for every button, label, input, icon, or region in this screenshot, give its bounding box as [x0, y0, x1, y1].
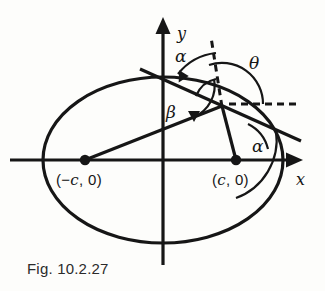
left-focus-dot — [80, 155, 90, 165]
angle-label-beta: β — [166, 104, 176, 121]
x-axis-label: x — [296, 172, 305, 188]
angle-label-alpha-lower: α — [252, 138, 263, 155]
x-axis-arrowhead — [286, 153, 303, 168]
angle-label-theta: θ — [249, 55, 259, 72]
y-axis-label: y — [177, 26, 186, 42]
left-focus-label-minus: − — [61, 171, 70, 188]
figure-container: y x α θ β α (−c, 0) (c, 0) Fig. 10.2.27 — [0, 0, 325, 291]
right-focus-label: (c, 0) — [212, 172, 249, 188]
figure-caption: Fig. 10.2.27 — [27, 261, 109, 276]
left-focus-label: (−c, 0) — [56, 172, 102, 188]
right-focus-label-rest: , 0) — [226, 171, 249, 188]
focal-radius-left-line — [85, 106, 222, 160]
right-focus-label-var: c — [217, 171, 226, 189]
angle-label-alpha-upper: α — [175, 48, 186, 65]
left-focus-label-var: c — [70, 171, 79, 189]
left-focus-label-rest: , 0) — [79, 171, 102, 188]
ellipse-reflection-diagram — [0, 0, 325, 291]
right-focus-dot — [231, 155, 241, 165]
focal-radius-right-line — [222, 106, 236, 160]
y-axis-arrowhead — [156, 17, 171, 34]
